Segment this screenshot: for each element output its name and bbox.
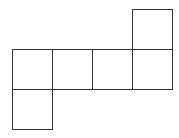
net-square-row-4 [133,50,173,90]
net-square-top-right [133,10,173,50]
net-square-bottom-left [13,90,53,130]
net-square-row-3 [93,50,133,90]
cube-net-diagram [0,0,179,138]
net-square-row-2 [53,50,93,90]
net-square-row-1 [13,50,53,90]
